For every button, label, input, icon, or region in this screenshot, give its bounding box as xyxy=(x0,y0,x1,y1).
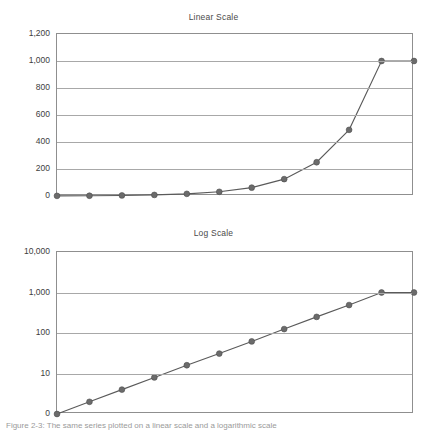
data-point-marker xyxy=(249,339,255,345)
data-point-marker xyxy=(184,191,190,197)
gridline xyxy=(57,115,412,116)
y-axis-tick-label: 1,000 xyxy=(0,287,50,297)
y-axis-tick-label: 400 xyxy=(0,136,50,146)
chart-title-linear: Linear Scale xyxy=(0,12,427,22)
gridline xyxy=(57,61,412,62)
data-point-marker xyxy=(87,193,93,199)
chart-title-log: Log Scale xyxy=(0,228,427,238)
y-axis-tick-label: 10,000 xyxy=(0,246,50,256)
data-point-marker xyxy=(314,159,320,165)
series-line xyxy=(57,61,414,196)
y-axis-tick-label: 0 xyxy=(0,408,50,418)
data-point-marker xyxy=(151,192,157,198)
gridline xyxy=(57,142,412,143)
data-point-marker xyxy=(54,411,60,417)
data-point-marker xyxy=(216,351,222,357)
plot-area-log xyxy=(56,251,413,413)
data-point-marker xyxy=(216,189,222,195)
data-point-marker xyxy=(249,185,255,191)
data-point-marker xyxy=(281,326,287,332)
y-axis-tick-label: 600 xyxy=(0,109,50,119)
data-point-marker xyxy=(346,127,352,133)
data-point-marker xyxy=(346,302,352,308)
gridline xyxy=(57,169,412,170)
y-axis-tick-label: 800 xyxy=(0,82,50,92)
data-point-marker xyxy=(184,362,190,368)
figure-caption: Figure 2-3: The same series plotted on a… xyxy=(6,421,421,431)
data-point-marker xyxy=(119,387,125,393)
gridline xyxy=(57,374,412,375)
data-point-marker xyxy=(151,375,157,381)
data-point-marker xyxy=(119,193,125,199)
gridline xyxy=(57,333,412,334)
y-axis-tick-label: 1,000 xyxy=(0,55,50,65)
gridline xyxy=(57,293,412,294)
data-point-marker xyxy=(54,193,60,199)
y-axis-tick-label: 1,200 xyxy=(0,28,50,38)
gridline xyxy=(57,88,412,89)
plot-area-linear xyxy=(56,33,413,195)
y-axis-tick-label: 100 xyxy=(0,327,50,337)
figure-container: Linear Scale 1,2001,0008006004002000 Log… xyxy=(0,0,427,431)
data-point-marker xyxy=(87,399,93,405)
data-point-marker xyxy=(314,314,320,320)
y-axis-tick-label: 0 xyxy=(0,190,50,200)
data-point-marker xyxy=(281,176,287,182)
y-axis-tick-label: 10 xyxy=(0,368,50,378)
series-line xyxy=(57,293,414,415)
y-axis-tick-label: 200 xyxy=(0,163,50,173)
